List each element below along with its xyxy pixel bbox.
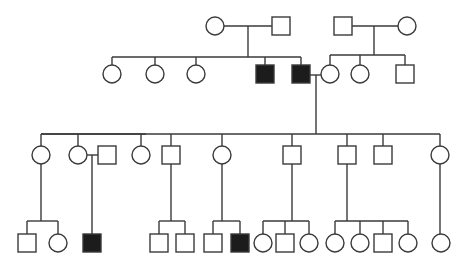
unaffected-female-circle-III-2 <box>69 146 87 164</box>
unaffected-female-circle-II-3 <box>187 65 205 83</box>
unaffected-male-square-IV-5 <box>176 234 194 252</box>
unaffected-female-circle-IV-10 <box>300 234 318 252</box>
unaffected-male-square-IV-9 <box>276 234 294 252</box>
unaffected-female-circle-II-7 <box>351 65 369 83</box>
unaffected-female-circle-III-4 <box>132 146 150 164</box>
unaffected-male-square-IV-13 <box>374 234 392 252</box>
unaffected-female-circle-II-1 <box>103 65 121 83</box>
unaffected-male-square-III-7 <box>283 146 301 164</box>
affected-male-square-II-4 <box>256 65 274 83</box>
unaffected-male-square-III-9 <box>374 146 392 164</box>
unaffected-female-circle-IV-15 <box>432 234 450 252</box>
unaffected-male-square-IV-4 <box>150 234 168 252</box>
unaffected-female-circle-IV-12 <box>351 234 369 252</box>
unaffected-female-circle-IV-11 <box>326 234 344 252</box>
affected-male-square-IV-3 <box>83 234 101 252</box>
unaffected-male-square-III-3 <box>98 146 116 164</box>
unaffected-female-circle-IV-14 <box>399 234 417 252</box>
unaffected-female-circle-III-1 <box>32 146 50 164</box>
relationship-lines <box>27 26 440 234</box>
unaffected-male-square-I-2 <box>272 17 290 35</box>
unaffected-male-square-IV-6 <box>204 234 222 252</box>
pedigree-chart <box>0 0 470 269</box>
unaffected-female-circle-III-10 <box>431 146 449 164</box>
unaffected-female-circle-II-6 <box>321 65 339 83</box>
unaffected-male-square-III-8 <box>338 146 356 164</box>
unaffected-female-circle-I-1 <box>206 17 224 35</box>
unaffected-female-circle-II-2 <box>146 65 164 83</box>
unaffected-male-square-IV-1 <box>18 234 36 252</box>
unaffected-female-circle-III-6 <box>213 146 231 164</box>
unaffected-female-circle-IV-8 <box>254 234 272 252</box>
unaffected-male-square-I-3 <box>334 17 352 35</box>
affected-male-square-II-5 <box>292 65 310 83</box>
unaffected-male-square-III-5 <box>162 146 180 164</box>
affected-male-square-IV-7 <box>231 234 249 252</box>
unaffected-female-circle-I-4 <box>398 17 416 35</box>
unaffected-male-square-II-8 <box>396 65 414 83</box>
unaffected-female-circle-IV-2 <box>49 234 67 252</box>
